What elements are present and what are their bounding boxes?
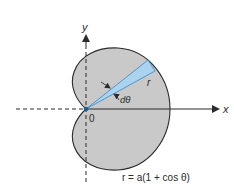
origin-dot [84, 107, 89, 112]
origin-label: 0 [89, 113, 95, 124]
equation-label: r = a(1 + cos θ) [122, 172, 190, 183]
diagram-canvas: y x 0 r dθ r = a(1 + cos θ) [0, 0, 234, 192]
y-axis-label: y [81, 21, 89, 33]
cardioid-figure: y x 0 r dθ r = a(1 + cos θ) [0, 0, 234, 192]
dtheta-label: dθ [120, 94, 131, 105]
x-axis-label: x [222, 103, 229, 115]
